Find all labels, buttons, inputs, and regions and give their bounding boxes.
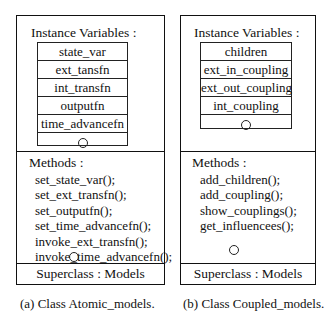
left-methods-ellipsis-circle-icon (69, 252, 79, 262)
variable-row-ellipsis (38, 133, 127, 151)
method-item: add_coupling(); (200, 187, 283, 203)
circle-icon (241, 120, 251, 130)
method-item: show_couplings(); (200, 203, 297, 219)
left-superclass-label: Superclass : Models (16, 266, 165, 282)
variable-row: ext_out_coupling (201, 79, 291, 97)
right-variables-table: children ext_in_coupling ext_out_couplin… (200, 42, 292, 129)
right-superclass-divider (180, 263, 316, 264)
left-methods-divider (16, 151, 165, 152)
method-item: invoke_ext_transfn(); (35, 234, 148, 250)
right-methods-ellipsis-circle-icon (229, 245, 239, 255)
left-methods-header: Methods : (29, 155, 83, 171)
variable-row-ellipsis (201, 115, 291, 133)
right-instance-variables-header: Instance Variables : (194, 25, 299, 41)
variable-row: ext_in_coupling (201, 61, 291, 79)
left-instance-variables-header: Instance Variables : (31, 25, 136, 41)
variable-row: children (201, 43, 291, 61)
method-item: get_influencees(); (200, 218, 294, 234)
method-item: set_time_advancefn(); (35, 218, 151, 234)
variable-row: time_advancefn (38, 115, 127, 133)
variable-row: int_transfn (38, 79, 127, 97)
left-caption: (a) Class Atomic_models. (20, 296, 155, 312)
right-methods-divider (180, 151, 316, 152)
left-variables-table: state_var ext_tansfn int_transfn outputf… (37, 42, 128, 146)
right-superclass-label: Superclass : Models (180, 266, 316, 282)
method-item: set_ext_transfn(); (35, 187, 127, 203)
circle-icon (78, 138, 88, 148)
method-item: set_state_var(); (35, 172, 115, 188)
method-item: set_outputfn(); (35, 203, 112, 219)
method-item: add_children(); (200, 172, 280, 188)
right-methods-header: Methods : (192, 155, 246, 171)
right-caption: (b) Class Coupled_models. (183, 296, 324, 312)
variable-row: outputfn (38, 97, 127, 115)
variable-row: ext_tansfn (38, 61, 127, 79)
left-superclass-divider (16, 263, 165, 264)
variable-row: state_var (38, 43, 127, 61)
variable-row: int_coupling (201, 97, 291, 115)
